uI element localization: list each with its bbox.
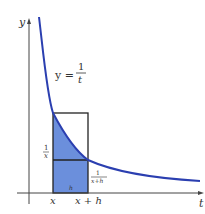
tick-label-x-plus-h: x + h (75, 195, 102, 206)
x-axis-label: t (199, 197, 204, 210)
left-height-denominator: x (44, 152, 48, 160)
equation-numerator: 1 (78, 61, 84, 72)
y-axis-arrow-icon (27, 18, 31, 24)
y-axis-label: y (18, 16, 26, 29)
tick-label-x: x (50, 195, 56, 206)
area-under-hyperbola-diagram: y t y = 1 t 1 x 1 x+h h x x + h (0, 0, 205, 214)
shaded-area (53, 113, 88, 193)
right-height-numerator: 1 (96, 169, 100, 176)
left-height-numerator: 1 (44, 144, 48, 152)
right-height-denominator: x+h (91, 177, 103, 184)
equation-denominator: t (78, 74, 83, 85)
equation-lhs: y = (54, 69, 74, 82)
x-axis-arrow-icon (198, 191, 204, 195)
width-label: h (69, 184, 73, 191)
